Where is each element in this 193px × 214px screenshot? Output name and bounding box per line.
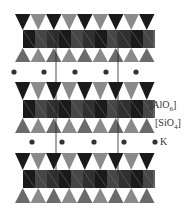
sio4-tetrahedron-icon: [62, 188, 78, 203]
sio4-tetrahedron-icon: [93, 82, 109, 100]
k-atom-icon: [121, 139, 126, 144]
sio4-tetrahedron-icon: [62, 82, 78, 100]
legend-sio4: [SiO4]: [155, 118, 181, 131]
sio4-tetrahedron-icon: [124, 188, 140, 203]
sio4-tetrahedron-icon: [15, 153, 31, 170]
k-atom-icon: [41, 69, 46, 74]
sio4-tetrahedron-icon: [93, 188, 109, 203]
k-atom-icon: [103, 69, 108, 74]
sio4-tetrahedron-icon: [31, 82, 47, 100]
sio4-tetrahedron-icon: [15, 48, 31, 62]
sio4-tetrahedron-icon: [15, 82, 31, 100]
sio4-tetrahedron-icon: [62, 153, 78, 170]
legend-k: K: [160, 137, 167, 147]
sio4-tetrahedron-icon: [62, 118, 78, 133]
sio4-tetrahedron-icon: [139, 14, 155, 30]
sio4-tetrahedron-icon: [124, 48, 140, 62]
sio4-tetrahedron-icon: [31, 48, 47, 62]
k-atom-icon: [72, 69, 77, 74]
sio4-tetrahedron-icon: [77, 82, 93, 100]
k-atom-icon: [11, 69, 16, 74]
sio4-tetrahedron-icon: [46, 153, 62, 170]
sio4-tetrahedron-icon: [108, 153, 124, 170]
sio4-tetrahedron-icon: [15, 188, 31, 203]
sio4-tetrahedron-icon: [62, 14, 78, 30]
sio4-tetrahedron-icon: [93, 118, 109, 133]
sio4-tetrahedron-icon: [77, 118, 93, 133]
legend-k-text: K: [160, 136, 167, 147]
k-atom-icon: [91, 139, 96, 144]
legend-alo6-close: ]: [173, 99, 176, 110]
sio4-tetrahedron-icon: [46, 48, 62, 62]
sio4-tetrahedron-icon: [139, 82, 155, 100]
sio4-tetrahedron-icon: [124, 82, 140, 100]
legend-alo6-base: [AlO: [149, 99, 170, 110]
sio4-tetrahedron-icon: [124, 153, 140, 170]
sio4-tetrahedron-icon: [108, 82, 124, 100]
sio4-tetrahedron-icon: [139, 118, 155, 133]
sio4-tetrahedron-icon: [139, 48, 155, 62]
sio4-tetrahedron-icon: [124, 118, 140, 133]
k-atom-icon: [133, 69, 138, 74]
sio4-tetrahedron-icon: [31, 188, 47, 203]
sio4-tetrahedron-icon: [139, 188, 155, 203]
sio4-tetrahedron-icon: [31, 14, 47, 30]
sio4-tetrahedron-icon: [93, 153, 109, 170]
legend-alo6: [AlO6]: [149, 100, 176, 113]
sio4-tetrahedron-icon: [46, 118, 62, 133]
sio4-tetrahedron-icon: [46, 14, 62, 30]
sio4-tetrahedron-icon: [15, 118, 31, 133]
sio4-tetrahedron-icon: [139, 153, 155, 170]
legend-sio4-base: [SiO: [155, 117, 174, 128]
sio4-tetrahedron-icon: [77, 153, 93, 170]
sio4-tetrahedron-icon: [108, 188, 124, 203]
sio4-tetrahedron-icon: [93, 48, 109, 62]
sio4-tetrahedron-icon: [15, 14, 31, 30]
sio4-tetrahedron-icon: [77, 14, 93, 30]
sio4-tetrahedron-icon: [46, 188, 62, 203]
sio4-tetrahedron-icon: [62, 48, 78, 62]
sio4-tetrahedron-icon: [77, 188, 93, 203]
sio4-tetrahedron-icon: [108, 48, 124, 62]
sio4-tetrahedron-icon: [124, 14, 140, 30]
k-atom-icon: [59, 139, 64, 144]
k-atom-icon: [152, 139, 157, 144]
sio4-tetrahedron-icon: [93, 14, 109, 30]
sio4-tetrahedron-icon: [108, 14, 124, 30]
sio4-tetrahedron-icon: [31, 153, 47, 170]
sio4-tetrahedron-icon: [31, 118, 47, 133]
sio4-tetrahedron-icon: [46, 82, 62, 100]
sio4-tetrahedron-icon: [108, 118, 124, 133]
legend-sio4-close: ]: [177, 117, 180, 128]
k-atom-icon: [29, 139, 34, 144]
sio4-tetrahedron-icon: [77, 48, 93, 62]
